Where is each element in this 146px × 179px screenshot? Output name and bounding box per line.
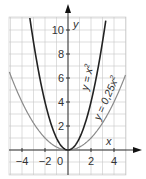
- svg-text:0: 0: [57, 155, 63, 167]
- parabola-chart: −4−2024246810 x y y = x2 y = 0,25x2: [0, 0, 146, 179]
- svg-text:10: 10: [52, 24, 64, 36]
- svg-text:2: 2: [58, 120, 64, 132]
- svg-text:6: 6: [58, 72, 64, 84]
- curve1-label: y = x2: [78, 63, 95, 92]
- svg-text:8: 8: [58, 48, 64, 60]
- y-axis-label: y: [72, 18, 80, 30]
- svg-text:4: 4: [58, 96, 64, 108]
- x-axis-label: x: [105, 135, 112, 147]
- svg-text:4: 4: [111, 155, 117, 167]
- svg-text:−2: −2: [39, 155, 52, 167]
- svg-text:2: 2: [88, 155, 94, 167]
- svg-text:−4: −4: [16, 155, 29, 167]
